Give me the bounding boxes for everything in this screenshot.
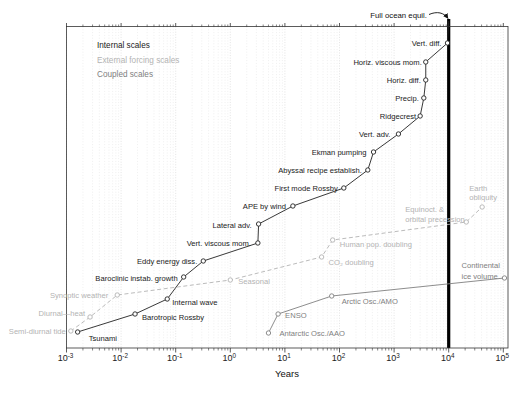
x-tick-label: 10-1 [167,352,183,364]
data-point-marker [291,204,295,208]
point-label: Arctic Osc./AMO [342,297,398,306]
point-label: Barotropic Rossby [142,313,204,322]
data-series: TsunamiBarotropic RossbyInternal waveBar… [9,21,507,343]
data-point-marker [133,312,137,316]
data-point-marker [371,150,375,154]
data-point-marker [201,259,205,263]
x-tick-label: 102 [332,352,346,364]
point-label: Vert. diff. [412,39,442,48]
data-point-marker [319,255,323,259]
x-tick-label: 10-2 [112,352,128,364]
data-point-marker [165,297,169,301]
data-point-marker [418,114,422,118]
legend-item-internal-scales: Internal scales [97,41,150,50]
data-point-marker [181,275,185,279]
point-label: Lateral adv. [212,221,251,230]
point-label: First mode Rossby [275,184,339,193]
point-label: Ridgecrest [380,112,417,121]
data-point-marker [75,330,79,334]
data-point-marker [422,96,426,100]
data-point-marker [256,241,260,245]
point-label: Abyssal recipe establish. [278,166,362,175]
axis-tick-labels: 10-310-210-1100101102103104105 [58,352,510,364]
point-label: Continentalice volume [461,261,500,281]
legend-item-coupled-scales: Coupled scales [97,70,153,79]
data-point-marker [115,293,119,297]
point-label: Eddy energy diss. [137,257,197,266]
data-point-marker [330,238,334,242]
full-ocean-equil-arrow [429,13,448,19]
legend-item-external-forcing-scales: External forcing scales [97,56,179,65]
full-ocean-equil-label: Full ocean equil. [370,11,427,20]
x-tick-label: 105 [496,352,510,364]
point-label: Horiz. diff. [387,76,421,85]
point-label: Seasonal [238,277,270,286]
point-label: Human pop. doubling [340,240,412,249]
point-label: APE by wind [243,202,286,211]
data-point-marker [69,329,73,333]
data-point-marker [88,315,92,319]
point-label: Antarctic Osc./AAO [279,329,345,338]
data-point-marker [424,60,428,64]
series-coupled-scales: Antarctic Osc./AAOENSOArctic Osc./AMOCon… [266,261,506,338]
point-label: Vert. viscous mom. [187,239,251,248]
point-label: Vert. adv. [359,130,391,139]
data-point-marker [256,222,260,226]
data-point-marker [502,276,506,280]
point-label: ENSO [285,311,307,320]
x-tick-label: 104 [441,352,455,364]
data-point-marker [342,186,346,190]
data-point-marker [424,78,428,82]
point-label: Diurnal—heat [39,309,86,318]
point-label: CO₂ doubling [329,258,374,267]
timescales-figure: 10-310-210-1100101102103104105 TsunamiBa… [0,0,526,393]
point-label: Internal wave [172,298,217,307]
x-axis-label: Years [275,368,299,379]
data-point-marker [480,205,484,209]
point-label: Ekman pumping [312,148,367,157]
point-label: Baroclinic instab. growth [95,274,177,283]
point-label: Earthobliquity [469,184,497,202]
data-point-marker [266,331,270,335]
x-tick-label: 100 [223,352,237,364]
data-point-marker [228,278,232,282]
data-point-marker [276,312,280,316]
point-label: Horiz. viscous mom. [353,58,421,67]
point-label: Precip. [395,94,419,103]
timescales-chart: 10-310-210-1100101102103104105 TsunamiBa… [0,0,526,393]
data-point-marker [366,168,370,172]
data-point-marker [445,41,449,45]
point-label: Tsunami [89,334,118,343]
point-label: Equinoct. &orbital precession [405,205,465,224]
x-tick-label: 10-3 [58,352,74,364]
x-tick-label: 103 [386,352,400,364]
x-tick-label: 101 [277,352,291,364]
data-point-marker [330,294,334,298]
annotation-full-ocean-equil: Full ocean equil. [370,11,448,20]
point-label: Synoptic weather [50,291,109,300]
point-label: Semi-diurnal tide [9,327,66,336]
data-point-marker [396,132,400,136]
